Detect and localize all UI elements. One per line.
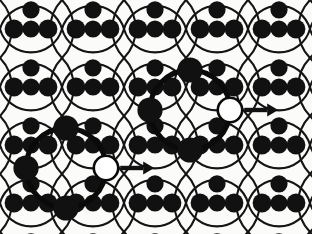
lattice-node [191, 194, 210, 213]
motif-node-south [177, 137, 202, 162]
lattice-node [5, 194, 24, 213]
lattice-node [270, 175, 287, 192]
lattice-node [270, 136, 287, 153]
lattice-node [253, 78, 272, 97]
lattice-node [270, 78, 287, 95]
lattice-node [270, 59, 287, 76]
lattice-node [129, 194, 148, 213]
lattice-node [270, 117, 287, 134]
lattice-node [253, 194, 272, 213]
lattice-node [84, 59, 101, 76]
lattice-node [22, 117, 39, 134]
lattice-node [270, 1, 287, 18]
lattice-node [287, 136, 306, 155]
lattice-node [129, 136, 148, 155]
lattice-node [84, 78, 101, 95]
lattice-node [101, 78, 120, 97]
lattice-node [287, 194, 306, 213]
motif-node-north [53, 115, 78, 140]
lattice-node [84, 1, 101, 18]
motif-node-east-hollow [94, 156, 118, 180]
lattice-node [163, 194, 182, 213]
lattice-node [270, 20, 287, 37]
lattice-node [5, 78, 24, 97]
lattice-node [287, 78, 306, 97]
lattice-canvas [0, 0, 312, 234]
motif-node-west [137, 97, 162, 122]
lattice-node [287, 20, 306, 39]
lattice-node [208, 1, 225, 18]
lattice-node [208, 194, 225, 211]
lattice-node [191, 20, 210, 39]
lattice-node [146, 59, 163, 76]
lattice-node [84, 20, 101, 37]
lattice-node [67, 78, 86, 97]
lattice-node [129, 78, 148, 97]
lattice-node [5, 20, 24, 39]
lattice-node [22, 20, 39, 37]
lattice-node [208, 175, 225, 192]
lattice-node [22, 59, 39, 76]
motif-node-south [53, 195, 78, 220]
lattice-node [146, 1, 163, 18]
lattice-arc [310, 232, 312, 234]
lattice-node [225, 20, 244, 39]
lattice-node [22, 1, 39, 18]
lattice-node [101, 20, 120, 39]
lattice-node [67, 20, 86, 39]
lattice-node [253, 20, 272, 39]
lattice-node [39, 20, 58, 39]
lattice-node [39, 78, 58, 97]
motif-node-west [13, 155, 38, 180]
lattice-node [208, 20, 225, 37]
motif-node-north [177, 57, 202, 82]
lattice-node [129, 20, 148, 39]
lattice-node [225, 136, 244, 155]
lattice-figure: Periodic circular-arc lattice with two h… [0, 0, 312, 234]
lattice-node [146, 20, 163, 37]
lattice-node [146, 175, 163, 192]
lattice-node [22, 78, 39, 95]
lattice-node [101, 194, 120, 213]
lattice-node [270, 194, 287, 211]
lattice-node [146, 194, 163, 211]
lattice-node [253, 136, 272, 155]
lattice-node [225, 194, 244, 213]
lattice-node [5, 136, 24, 155]
motif-node-east-hollow [218, 98, 242, 122]
lattice-node [163, 20, 182, 39]
